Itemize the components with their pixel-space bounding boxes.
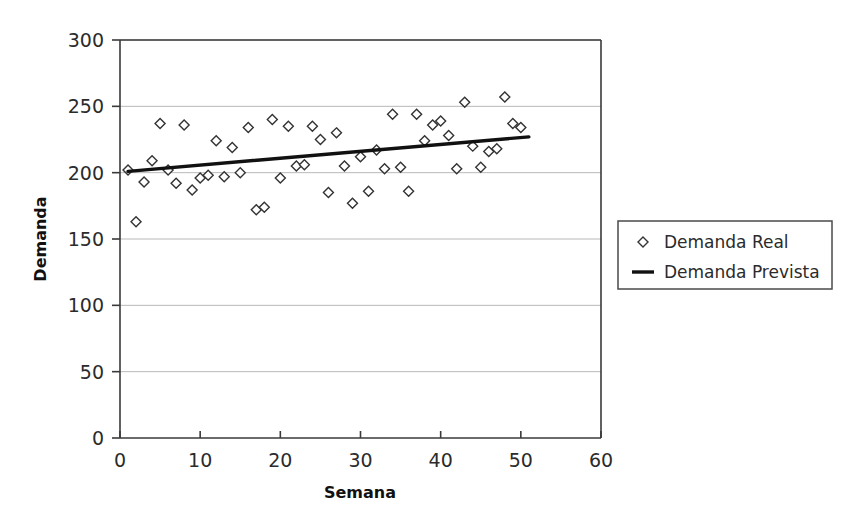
x-tick-label: 40 [429, 449, 453, 471]
x-axis-title: Semana [324, 483, 396, 502]
legend-label: Demanda Real [664, 232, 789, 252]
y-tick-label: 200 [68, 162, 104, 184]
x-tick-label: 20 [268, 449, 292, 471]
chart-legend: Demanda Real Demanda Prevista [618, 221, 832, 289]
y-tick-label: 150 [68, 228, 104, 250]
y-tick-label: 0 [92, 427, 104, 449]
scatter-chart: 0102030405060 050100150200250300 Semana … [0, 0, 866, 518]
y-tick-label: 250 [68, 95, 104, 117]
y-axis-title: Demanda [31, 196, 50, 281]
x-tick-label: 0 [114, 449, 126, 471]
y-tick-label: 50 [80, 361, 104, 383]
y-tick-label: 100 [68, 294, 104, 316]
x-tick-label: 10 [188, 449, 212, 471]
chart-figure: 0102030405060 050100150200250300 Semana … [0, 0, 866, 518]
x-tick-label: 50 [509, 449, 533, 471]
x-tick-label: 30 [348, 449, 372, 471]
x-tick-label: 60 [589, 449, 613, 471]
y-tick-label: 300 [68, 29, 104, 51]
legend-label: Demanda Prevista [664, 262, 820, 282]
